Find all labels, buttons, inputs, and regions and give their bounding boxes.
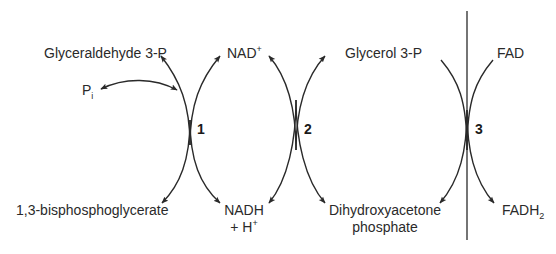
label-dhap-line2: phosphate <box>326 219 444 235</box>
arrow-to-nad <box>190 56 220 145</box>
label-pi-sub: i <box>91 91 93 101</box>
label-nad-sup: + <box>257 44 262 54</box>
arrow-to-dhap-from-3 <box>440 110 467 203</box>
label-fadh-sub: 2 <box>539 211 544 221</box>
label-pi: Pi <box>82 82 93 98</box>
label-h-sup: + <box>252 218 257 228</box>
reaction-number-2: 2 <box>304 121 312 137</box>
arrow-to-dhap <box>296 100 325 203</box>
label-1-3-bisphosphoglycerate: 1,3-bisphosphoglycerate <box>16 202 169 218</box>
arrow-to-glyceraldehyde-3p <box>161 56 190 145</box>
curve-from-glycerol-side <box>441 60 467 150</box>
arrow-pi-exchange <box>101 80 177 90</box>
label-h-plus: + H+ <box>222 219 266 235</box>
arrow-to-nadh-from-2 <box>269 100 296 203</box>
reaction-number-3: 3 <box>475 121 483 137</box>
arrow-to-nad-from-2 <box>269 56 296 150</box>
arrow-to-bisphosphoglycerate <box>162 120 190 203</box>
label-nadh-h: NADH + H+ <box>222 202 266 235</box>
label-dhap-line1: Dihydroxyacetone <box>326 202 444 218</box>
label-dihydroxyacetone-phosphate: Dihydroxyacetone phosphate <box>326 202 444 235</box>
label-nadh: NADH <box>222 202 266 218</box>
label-nad: NAD+ <box>227 45 262 61</box>
label-glycerol-3p: Glycerol 3-P <box>345 45 422 61</box>
label-fadh2: FADH2 <box>502 202 544 218</box>
label-fadh-base: FADH <box>502 202 539 218</box>
label-fad: FAD <box>497 45 524 61</box>
label-nad-base: NAD <box>227 45 257 61</box>
reaction-3-arrows <box>440 11 494 240</box>
arrow-to-nadh <box>190 120 220 203</box>
label-h-base: + H <box>230 219 252 235</box>
reaction-number-1: 1 <box>197 121 205 137</box>
label-glyceraldehyde-3p: Glyceraldehyde 3-P <box>44 45 167 61</box>
label-pi-base: P <box>82 82 91 98</box>
reaction-2-arrows <box>269 56 325 203</box>
